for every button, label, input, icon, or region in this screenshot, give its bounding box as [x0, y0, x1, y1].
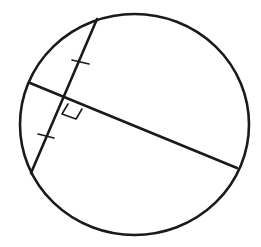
- geometry-figure: [0, 0, 261, 247]
- diameter-line: [30, 83, 237, 168]
- diagram-canvas: Circle with a chord bisected perpendicul…: [0, 0, 261, 247]
- right-angle-marker: [62, 104, 82, 119]
- circle-outline: [20, 14, 249, 235]
